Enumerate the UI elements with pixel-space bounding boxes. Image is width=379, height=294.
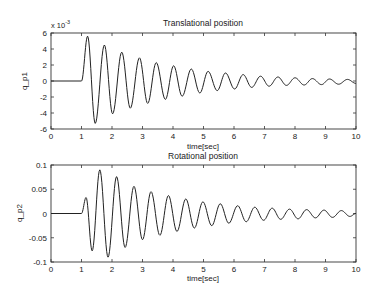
x-tick-label: 6 xyxy=(232,132,237,141)
y-tick-label: -4 xyxy=(40,109,48,118)
x-tick-label: 3 xyxy=(140,132,145,141)
plot-title: Rotational position xyxy=(168,151,238,161)
y-tick-label: -6 xyxy=(40,125,48,134)
chart-figure: Translational position x 10-3 0123456789… xyxy=(0,0,379,294)
y-tick-label: 2 xyxy=(43,61,48,70)
x-tick-label: 2 xyxy=(110,265,115,274)
x-tick-label: 9 xyxy=(323,132,328,141)
x-tick-label: 1 xyxy=(79,265,84,274)
y-tick-label: 0 xyxy=(43,77,48,86)
x-tick-label: 8 xyxy=(293,132,298,141)
x-tick-label: 5 xyxy=(201,265,206,274)
x-axis-label: time[sec] xyxy=(187,142,219,151)
y-tick-label: 0.05 xyxy=(31,185,47,194)
y-tick-label: 0 xyxy=(43,210,48,219)
translational-position-plot: Translational position x 10-3 0123456789… xyxy=(20,18,361,151)
plot-title: Translational position xyxy=(163,18,243,28)
axis-ticks: 012345678910-0.1-0.0500.050.1 xyxy=(29,161,361,274)
y-multiplier-exponent: -3 xyxy=(65,19,70,25)
x-tick-label: 7 xyxy=(262,265,267,274)
y-multiplier-base: x 10 xyxy=(51,21,65,30)
x-axis-label: time[sec] xyxy=(187,274,219,283)
q_p2-line xyxy=(51,170,356,257)
y-tick-label: 6 xyxy=(43,29,48,38)
x-tick-label: 3 xyxy=(140,265,145,274)
x-tick-label: 5 xyxy=(201,132,206,141)
x-tick-label: 1 xyxy=(79,132,84,141)
x-tick-label: 4 xyxy=(171,265,176,274)
x-tick-label: 8 xyxy=(293,265,298,274)
rotational-position-plot: Rotational position 012345678910-0.1-0.0… xyxy=(15,151,361,283)
q_p1-line xyxy=(51,36,356,123)
y-tick-label: 4 xyxy=(43,45,48,54)
y-axis-label: q_p2 xyxy=(15,204,24,222)
y-tick-label: -0.1 xyxy=(33,258,47,267)
x-tick-label: 0 xyxy=(49,265,54,274)
x-tick-label: 2 xyxy=(110,132,115,141)
x-tick-label: 10 xyxy=(352,265,361,274)
x-tick-label: 10 xyxy=(352,132,361,141)
y-tick-label: -2 xyxy=(40,93,48,102)
axis-ticks: 012345678910-6-4-20246 xyxy=(40,29,361,141)
x-tick-label: 9 xyxy=(323,265,328,274)
x-tick-label: 0 xyxy=(49,132,54,141)
y-multiplier: x 10-3 xyxy=(51,19,70,30)
y-axis-label: q_p1 xyxy=(20,72,29,90)
y-tick-label: -0.05 xyxy=(29,234,48,243)
y-tick-label: 0.1 xyxy=(36,161,48,170)
x-tick-label: 4 xyxy=(171,132,176,141)
x-tick-label: 6 xyxy=(232,265,237,274)
x-tick-label: 7 xyxy=(262,132,267,141)
